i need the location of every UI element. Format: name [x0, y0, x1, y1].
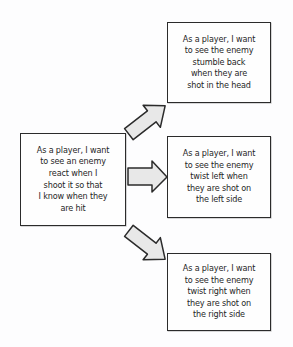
child-story-text-head-shot: As a player, I want to see the enemy stu… — [183, 34, 255, 92]
child-story-text-left-side: As a player, I want to see the enemy twi… — [183, 148, 255, 206]
child-story-box-right-side[interactable]: As a player, I want to see the enemy twi… — [167, 253, 271, 331]
child-story-box-head-shot[interactable]: As a player, I want to see the enemy stu… — [167, 22, 271, 103]
parent-story-text: As a player, I want to see an enemy reac… — [37, 145, 109, 215]
arrow-down-right-icon[interactable] — [120, 220, 173, 270]
child-story-text-right-side: As a player, I want to see the enemy twi… — [183, 263, 255, 321]
arrow-up-right-icon[interactable] — [120, 95, 173, 145]
child-story-box-left-side[interactable]: As a player, I want to see the enemy twi… — [167, 136, 271, 218]
diagram-canvas: As a player, I want to see an enemy reac… — [0, 0, 293, 347]
parent-story-box[interactable]: As a player, I want to see an enemy reac… — [20, 133, 126, 226]
arrow-right-icon[interactable] — [128, 161, 167, 192]
